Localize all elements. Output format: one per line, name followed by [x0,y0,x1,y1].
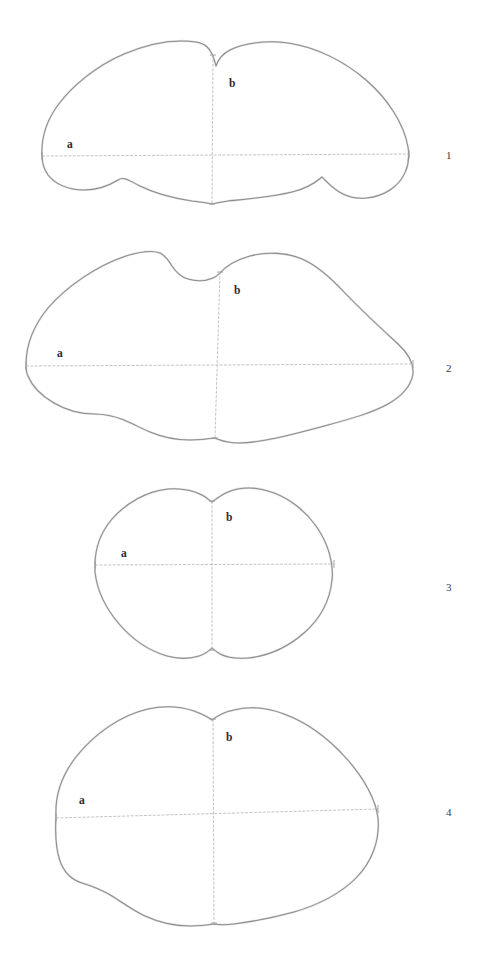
figure-number-1: 1 [446,149,452,161]
figure-number-3: 3 [446,581,452,593]
axis-a-label-2: a [57,347,63,359]
axis-a-label-3: a [121,547,127,559]
axis-b-label-1: b [229,77,235,89]
figure-number-4: 4 [446,806,452,818]
figure-number-2: 2 [446,362,452,374]
plate-canvas: abababab [0,0,482,971]
axis-b-label-4: b [226,731,232,743]
axis-b-label-2: b [234,284,240,296]
figure-plate: abababab 1 2 3 4 [0,0,482,971]
axis-a-label-1: a [67,138,73,150]
axis-b-label-3: b [226,511,232,523]
axis-a-label-4: a [79,794,85,806]
